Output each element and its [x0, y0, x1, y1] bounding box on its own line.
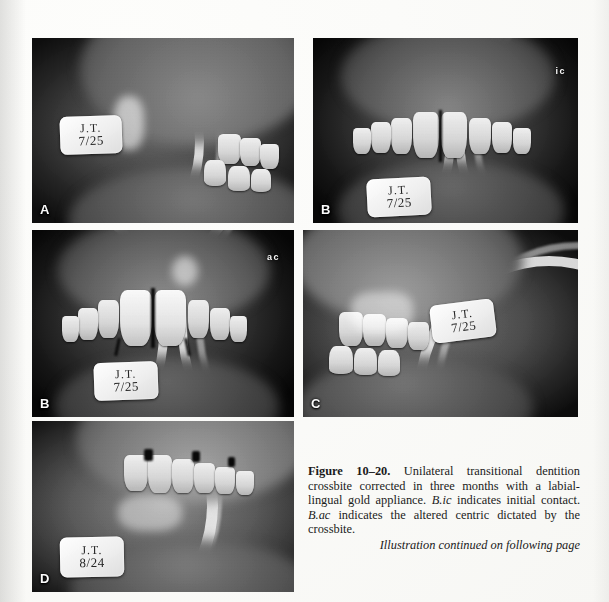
tooth: [251, 169, 271, 192]
midline-gap: [439, 110, 442, 162]
tooth: [240, 138, 261, 166]
caption-mid-2: indicates the altered centric dictated b…: [308, 508, 580, 537]
gold-appliance-wire: [144, 449, 153, 461]
tooth-canine-right: [492, 122, 512, 153]
photo-panel-a: J.T. 7/25 A: [32, 38, 294, 223]
tooth: [194, 463, 215, 493]
tooth-central-incisor-left: [120, 290, 152, 346]
tooth: [329, 346, 353, 374]
tooth-canine-left: [78, 308, 98, 340]
specular-highlight: [351, 292, 413, 332]
specular-highlight: [172, 256, 198, 286]
scanned-page: J.T. 7/25 A ic J.T. 7/25 B: [0, 0, 609, 602]
tag-date: 7/25: [113, 380, 139, 395]
tooth: [354, 348, 377, 375]
patient-id-tag: J.T. 7/25: [93, 361, 158, 401]
gold-appliance-wire: [192, 451, 200, 462]
tooth: [228, 166, 250, 191]
tag-date: 7/25: [78, 134, 104, 149]
annotation-ac: ac: [267, 252, 280, 262]
panel-letter-d: D: [40, 571, 50, 586]
photo-panel-b-ic: ic J.T. 7/25 B: [313, 38, 578, 223]
panel-letter-b-ic: B: [321, 202, 331, 217]
caption-term-bac: B.ac: [308, 508, 330, 522]
patient-id-tag: J.T. 7/25: [366, 176, 432, 217]
tooth: [172, 459, 194, 493]
caption-mid-1: indicates initial contact.: [451, 493, 580, 507]
tooth-lateral-incisor-left: [391, 118, 412, 154]
figure-caption: Figure 10–20. Unilateral transitional de…: [308, 464, 580, 553]
tooth: [204, 160, 226, 186]
tooth-lateral-incisor-left: [98, 300, 119, 338]
tag-date: 8/24: [79, 556, 104, 570]
patient-id-tag: J.T. 7/25: [59, 115, 122, 155]
tooth: [408, 322, 429, 350]
tooth-central-incisor-left: [413, 112, 439, 158]
tooth-lateral-incisor-right: [188, 300, 209, 338]
tag-date: 7/25: [450, 319, 477, 336]
tooth: [215, 467, 235, 494]
patient-id-tag: J.T. 7/25: [429, 298, 497, 344]
tooth-posterior-right: [230, 316, 247, 342]
photo-panel-c: J.T. 7/25 C: [303, 230, 578, 417]
tooth: [378, 350, 400, 376]
annotation-ic: ic: [555, 66, 566, 76]
continuation-note: Illustration continued on following page: [308, 538, 580, 553]
panel-letter-a: A: [40, 202, 50, 217]
tooth-canine-right: [210, 308, 230, 340]
tooth-central-incisor-right: [441, 112, 467, 158]
panel-letter-c: C: [311, 396, 321, 411]
panel-letter-b-ac: B: [40, 396, 50, 411]
tooth-lateral-incisor-right: [469, 118, 491, 154]
tooth: [236, 471, 254, 495]
tooth-posterior-left: [62, 316, 79, 342]
tooth-posterior-right: [513, 128, 531, 154]
figure-number: Figure 10–20.: [308, 464, 390, 478]
midline-gap: [151, 288, 155, 348]
caption-term-bic: B.ic: [432, 493, 452, 507]
patient-id-tag: J.T. 8/24: [60, 536, 125, 577]
gold-appliance-wire: [228, 457, 235, 467]
tag-date: 7/25: [386, 196, 412, 211]
tooth-posterior-left: [353, 128, 371, 154]
photo-panel-b-ac: ac J.T. 7/25 B: [32, 230, 294, 417]
specular-highlight: [118, 495, 182, 531]
tooth: [260, 144, 279, 169]
tooth-central-incisor-right: [154, 290, 186, 346]
photo-panel-d: J.T. 8/24 D: [32, 421, 294, 592]
tooth-canine-left: [371, 122, 391, 153]
